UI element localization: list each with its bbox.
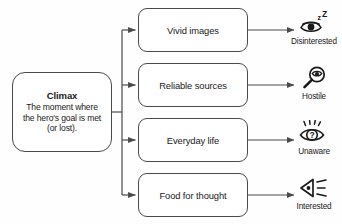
climax-description: The moment where the hero's goal is met … [23, 102, 101, 134]
branch-box-food-for-thought[interactable]: Food for thought [138, 173, 248, 217]
outcome-interested[interactable]: Interested [288, 175, 340, 212]
outcome-label: Disinterested [291, 37, 337, 47]
question-eye-icon: ? [297, 120, 331, 146]
branch-label: Food for thought [159, 190, 226, 201]
outcome-hostile[interactable]: Hostile [288, 65, 340, 102]
branch-box-vivid-images[interactable]: Vivid images [138, 8, 248, 52]
sleeping-eye-icon: z Z [297, 10, 331, 36]
outcome-label: Unaware [298, 147, 330, 157]
svg-text:z: z [318, 14, 322, 21]
climax-line-1: The moment where [23, 102, 101, 113]
branch-box-reliable-sources[interactable]: Reliable sources [138, 63, 248, 107]
branch-box-everyday-life[interactable]: Everyday life [138, 118, 248, 162]
outcome-disinterested[interactable]: z Z Disinterested [288, 10, 340, 47]
branch-label: Reliable sources [159, 80, 227, 91]
speaker-waves-icon [297, 175, 331, 201]
svg-text:Z: Z [322, 10, 327, 19]
branch-label: Everyday life [167, 135, 219, 146]
outcome-label: Interested [297, 202, 332, 212]
climax-node[interactable]: Climax The moment where the hero's goal … [12, 72, 112, 152]
svg-text:?: ? [309, 130, 314, 140]
diagram-canvas: Climax The moment where the hero's goal … [0, 0, 342, 224]
outcome-label: Hostile [302, 92, 326, 102]
climax-line-2: the hero's goal is met [23, 113, 101, 124]
branch-label: Vivid images [167, 25, 219, 36]
climax-title: Climax [47, 90, 78, 102]
outcome-unaware[interactable]: ? Unaware [288, 120, 340, 157]
magnifier-eye-icon [297, 65, 331, 91]
climax-line-3: (or lost). [23, 123, 101, 134]
